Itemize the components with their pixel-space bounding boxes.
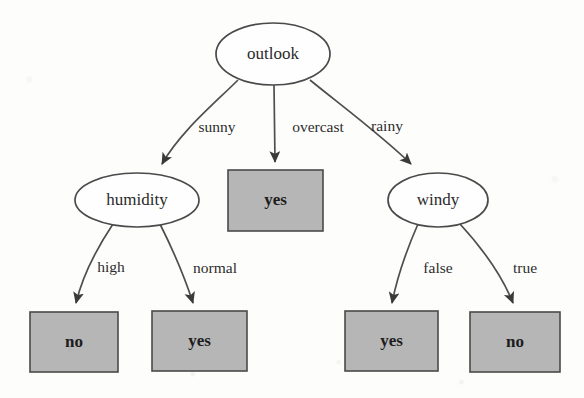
edge-label-normal: normal xyxy=(193,259,237,276)
node-label-outlook: outlook xyxy=(247,44,299,63)
decision-tree-figure: outlook humidity windy yes no yes yes no… xyxy=(0,0,584,398)
node-label-humidity: humidity xyxy=(106,190,168,209)
tree-canvas: outlook humidity windy yes no yes yes no… xyxy=(0,0,584,398)
edge-label-overcast: overcast xyxy=(292,118,344,135)
edge-true xyxy=(460,224,513,303)
edge-label-true: true xyxy=(513,259,537,276)
leaf-label-overcast-yes: yes xyxy=(264,190,287,209)
edge-label-false: false xyxy=(423,259,452,276)
leaf-label-true-no: no xyxy=(506,332,524,351)
leaf-label-normal-yes: yes xyxy=(188,331,211,350)
edge-false xyxy=(392,224,418,303)
edge-label-sunny: sunny xyxy=(198,118,235,135)
edge-label-high: high xyxy=(97,258,125,275)
edge-label-rainy: rainy xyxy=(371,117,403,134)
leaf-label-false-yes: yes xyxy=(380,331,403,350)
leaf-label-high-no: no xyxy=(65,332,83,351)
edge-overcast xyxy=(274,85,275,162)
node-label-windy: windy xyxy=(417,190,460,209)
edge-normal xyxy=(160,224,193,303)
